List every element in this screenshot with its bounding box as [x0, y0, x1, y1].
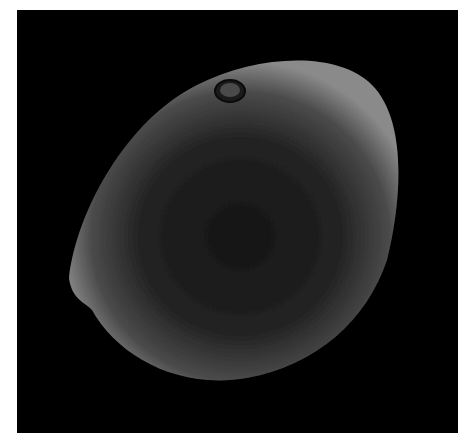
pollen-grain-figure [17, 10, 458, 433]
micrograph-panel [17, 10, 458, 433]
pollen-grain [69, 61, 398, 381]
pore-icon [215, 80, 245, 102]
